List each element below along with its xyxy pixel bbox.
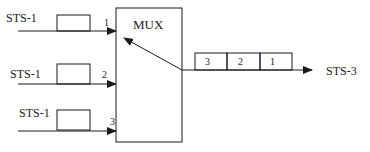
input-frame-3 <box>57 110 90 130</box>
input-label-1: STS-1 <box>6 11 37 25</box>
input-label-3: STS-1 <box>19 106 50 120</box>
output-frame-label-2: 2 <box>238 56 243 67</box>
output-label: STS-3 <box>326 64 357 78</box>
output-channel: 3 2 1 STS-3 <box>182 53 357 78</box>
output-frame-label-3: 1 <box>270 56 275 67</box>
output-frame-2 <box>227 53 260 70</box>
mux-block: MUX <box>116 8 182 142</box>
input-channel-1: STS-1 1 <box>6 11 116 31</box>
multiplexer-diagram: STS-1 1 STS-1 2 STS-1 3 MUX 3 2 1 STS-3 <box>0 0 370 152</box>
port-number-2: 2 <box>102 69 107 80</box>
input-frame-1 <box>57 15 90 31</box>
input-label-2: STS-1 <box>10 67 41 81</box>
input-channel-2: STS-1 2 <box>10 64 116 84</box>
input-channel-3: STS-1 3 <box>18 106 116 131</box>
input-frame-2 <box>57 64 90 84</box>
port-number-3: 3 <box>110 116 115 127</box>
output-frame-label-1: 3 <box>205 56 210 67</box>
output-frame-1 <box>195 53 227 70</box>
mux-label: MUX <box>133 17 164 32</box>
port-number-1: 1 <box>104 17 109 28</box>
output-frame-3 <box>260 53 292 70</box>
selector-arrow-icon <box>124 38 182 70</box>
